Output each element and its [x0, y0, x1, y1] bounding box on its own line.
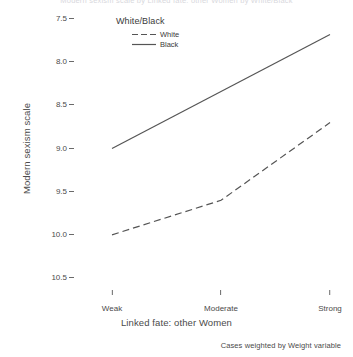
- y-tick-label: 10.0: [28, 230, 74, 239]
- y-tick-mark: [69, 234, 74, 235]
- y-tick-text: 7.5: [56, 14, 67, 23]
- y-tick-label: 9.0: [28, 144, 74, 153]
- series-line-black: [112, 35, 330, 149]
- series-line-white: [112, 123, 330, 235]
- x-tick-mark: [329, 290, 330, 295]
- legend-title: White/Black: [116, 16, 234, 26]
- y-tick-text: 8.5: [56, 100, 67, 109]
- legend-swatch-white-icon: [132, 31, 156, 38]
- y-tick-label: 7.5: [28, 14, 74, 23]
- y-tick-label: 8.5: [28, 100, 74, 109]
- y-tick-mark: [69, 61, 74, 62]
- y-tick-mark: [69, 104, 74, 105]
- y-tick-mark: [69, 148, 74, 149]
- x-axis-ticks: WeakModerateStrong: [78, 290, 346, 316]
- chart-container: Modern sexism scale by Linked fate: othe…: [0, 0, 353, 357]
- y-tick-label: 10.5: [28, 273, 74, 282]
- x-tick-mark: [112, 290, 113, 295]
- x-tick-strong: Strong: [318, 290, 342, 315]
- y-tick-text: 10.5: [51, 273, 67, 282]
- x-tick-moderate: Moderate: [204, 290, 238, 315]
- y-tick-label: 8.0: [28, 57, 74, 66]
- series-lines: [78, 10, 346, 295]
- legend-label: Black: [160, 40, 178, 49]
- legend-entry-white[interactable]: White: [132, 30, 234, 39]
- y-tick-text: 9.5: [56, 187, 67, 196]
- y-tick-text: 10.0: [51, 230, 67, 239]
- y-tick-mark: [69, 277, 74, 278]
- y-tick-mark: [69, 191, 74, 192]
- x-tick-text: Strong: [318, 304, 342, 313]
- y-tick-mark: [69, 18, 74, 19]
- x-tick-text: Weak: [102, 304, 122, 313]
- legend: White/Black WhiteBlack: [104, 16, 234, 50]
- y-axis-ticks: 10.510.09.59.08.58.07.5: [18, 0, 74, 357]
- y-tick-label: 9.5: [28, 187, 74, 196]
- legend-entries: WhiteBlack: [104, 30, 234, 49]
- x-tick-weak: Weak: [102, 290, 122, 315]
- x-tick-text: Moderate: [204, 304, 238, 313]
- legend-label: White: [160, 30, 179, 39]
- y-tick-text: 9.0: [56, 144, 67, 153]
- legend-swatch-black-icon: [132, 41, 156, 48]
- x-tick-mark: [220, 290, 221, 295]
- plot-area: [78, 10, 346, 295]
- x-axis-title: Linked fate: other Women: [0, 317, 353, 328]
- legend-entry-black[interactable]: Black: [132, 40, 234, 49]
- y-tick-text: 8.0: [56, 57, 67, 66]
- chart-footnote: Cases weighted by Weight variable: [221, 341, 341, 350]
